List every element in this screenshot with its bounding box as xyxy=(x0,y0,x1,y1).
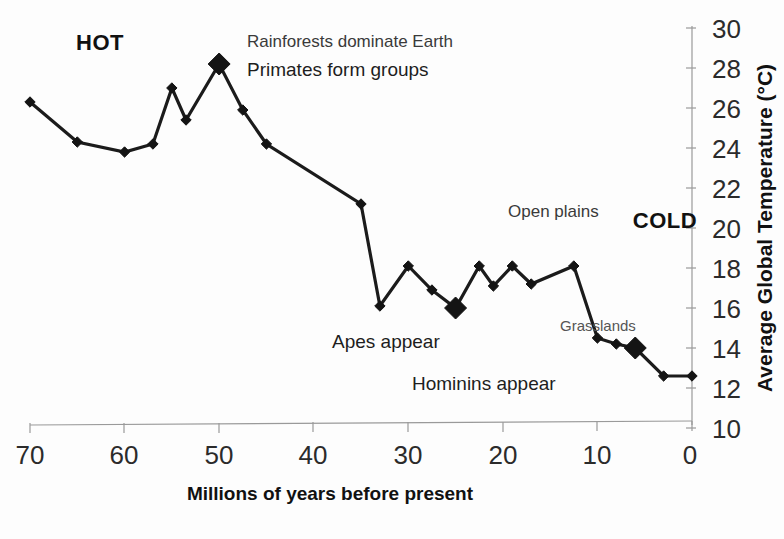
x-tick-label: 30 xyxy=(394,440,423,470)
annotation-hominins-appear: Hominins appear xyxy=(412,373,556,394)
annotation-open-plains: Open plains xyxy=(508,202,599,221)
x-tick-label: 50 xyxy=(205,440,234,470)
y-tick-label: 16 xyxy=(712,294,741,324)
data-point-marker xyxy=(611,339,621,349)
temperature-line-chart: 70 60 50 40 30 20 10 0 30 28 26 24 22 20… xyxy=(0,0,784,539)
y-tick-labels: 30 28 26 24 22 20 18 16 14 12 10 xyxy=(712,14,741,444)
y-tick-label: 28 xyxy=(712,54,741,84)
x-tick-labels: 70 60 50 40 30 20 10 0 xyxy=(16,440,698,470)
x-tick-label: 70 xyxy=(16,440,45,470)
x-axis-title: Millions of years before present xyxy=(187,483,474,504)
y-tick-label: 18 xyxy=(712,254,741,284)
x-tick-label: 10 xyxy=(583,440,612,470)
annotation-apes-appear: Apes appear xyxy=(332,331,440,352)
data-point-marker-emphasized xyxy=(208,53,230,75)
annotation-grasslands: Grasslands xyxy=(560,317,636,334)
data-point-marker xyxy=(167,83,177,93)
annotation-cold: COLD xyxy=(633,208,697,233)
y-axis-title: Average Global Temperature (°C) xyxy=(753,64,776,392)
data-point-marker xyxy=(148,139,158,149)
y-tick-label: 30 xyxy=(712,14,741,44)
x-tick-label: 40 xyxy=(299,440,328,470)
y-tick-label: 24 xyxy=(712,134,741,164)
x-tick-label: 60 xyxy=(110,440,139,470)
y-tick-label: 26 xyxy=(712,94,741,124)
chart-axes xyxy=(30,26,696,433)
annotation-hot: HOT xyxy=(76,30,124,55)
annotation-rainforests: Rainforests dominate Earth xyxy=(247,32,453,51)
annotation-primates: Primates form groups xyxy=(247,59,429,80)
y-tick-label: 22 xyxy=(712,174,741,204)
y-tick-label: 10 xyxy=(712,414,741,444)
y-tick-label: 14 xyxy=(712,334,741,364)
y-tick-label: 20 xyxy=(712,214,741,244)
data-point-marker xyxy=(592,333,602,343)
x-tick-label: 0 xyxy=(683,440,697,470)
data-point-marker xyxy=(119,147,129,157)
x-axis-line xyxy=(30,421,692,425)
y-tick-label: 12 xyxy=(712,374,741,404)
data-point-marker xyxy=(687,371,697,381)
chart-figure: 70 60 50 40 30 20 10 0 30 28 26 24 22 20… xyxy=(0,0,784,539)
x-tick-label: 20 xyxy=(489,440,518,470)
data-point-marker xyxy=(569,261,579,271)
